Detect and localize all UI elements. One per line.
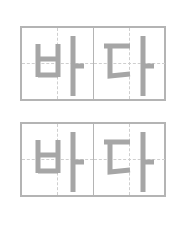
syllable-cell-ba (22, 28, 93, 99)
practice-card-1 (20, 26, 166, 101)
glyph-da (94, 124, 165, 195)
practice-card-2 (20, 122, 166, 197)
glyph-ba (22, 28, 93, 99)
syllable-cell-ba (22, 124, 93, 195)
syllable-cell-da (94, 124, 165, 195)
glyph-ba (22, 124, 93, 195)
glyph-da (94, 28, 165, 99)
syllable-cell-da (94, 28, 165, 99)
